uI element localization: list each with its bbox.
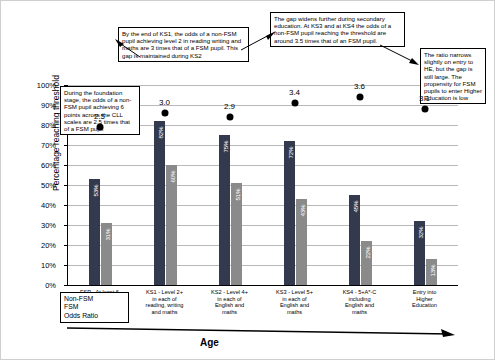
bar-fsm: 43% [296,199,307,285]
bar-fsm: 31% [101,223,112,285]
y-axis-tick-label: 20% [41,241,56,250]
y-axis-tick-label: 80% [41,121,56,130]
bar-group: 45%22% [349,85,372,285]
odds-ratio-value-label: 3.6 [354,82,365,91]
x-axis-category-line: and maths [132,309,197,316]
y-axis-tick-label: 30% [41,221,56,230]
y-axis-tick [64,245,68,246]
x-axis-category-line: maths [262,309,327,316]
x-axis-category-label: KS3 - Level 5+in each ofEnglish andmaths [262,289,327,315]
x-axis-category-line: KS1 - Level 2+ [132,289,197,296]
y-axis-tick-label: 50% [41,181,56,190]
x-axis-category-line: in each of [197,296,262,303]
bar-value-label: 13% [428,265,435,277]
x-axis-category-line: Entry into [392,289,457,296]
y-axis-tick-label: 10% [41,261,56,270]
odds-ratio-point [291,100,298,107]
bar-value-label: 82% [156,127,163,139]
bar-fsm: 60% [166,165,177,285]
odds-ratio-value-label: 2.9 [224,102,235,111]
bar-non-fsm: 32% [414,221,425,285]
x-axis-category-line: Higher [392,296,457,303]
x-axis-category-line: English and [197,302,262,309]
y-axis-tick [64,185,68,186]
odds-ratio-value-label: 2.5 [94,112,105,121]
x-axis-category-line: in each of [262,296,327,303]
bar-value-label: 75% [221,141,228,153]
x-axis-category-line: including [327,296,392,303]
y-axis-tick-label: 70% [41,141,56,150]
bar-value-label: 31% [103,229,110,241]
gridline [68,225,458,226]
odds-ratio-value-label: 3.0 [159,98,170,107]
x-axis-category-line: reading, writing [132,302,197,309]
y-axis-tick-labels: 0%10%20%30%40%50%60%70%80%90%100% [0,85,64,285]
x-axis-category-label: KS2 - Level 4+in each ofEnglish andmaths [197,289,262,315]
x-axis-category-label: KS1 - Level 2+in each ofreading, writing… [132,289,197,315]
odds-ratio-value-label: 3.4 [289,88,300,97]
x-axis-category-line: KS4 - 5+A*-C [327,289,392,296]
gridline [68,245,458,246]
bar-non-fsm: 53% [89,179,100,285]
x-axis-title: Age [200,337,219,348]
y-axis-tick [64,165,68,166]
bar-value-label: 53% [91,185,98,197]
gridline [68,145,458,146]
y-axis-tick [64,225,68,226]
x-axis-category-label: KS4 - 5+A*-CincludingEnglish andmaths [327,289,392,315]
annotation-ks1-ks2: By the end of KS1, the odds of a non-FSM… [118,27,249,62]
bar-group: 72%43% [284,85,307,285]
x-axis-category-line: in each of [132,296,197,303]
legend-item-fsm: FSM [64,303,125,311]
y-axis-tick [64,205,68,206]
bar-non-fsm: 72% [284,141,295,285]
x-axis-category-label: Entry intoHigherEducation [392,289,457,309]
x-axis-category-line: maths [327,309,392,316]
x-axis-category-line: English and [262,302,327,309]
legend-item-odds-ratio: Odds Ratio [64,312,125,320]
bar-value-label: 45% [351,201,358,213]
bar-value-label: 51% [233,189,240,201]
bar-group: 32%13% [414,85,437,285]
y-axis-tick-label: 0% [45,281,56,290]
gridline [68,185,458,186]
legend-item-non-fsm: Non-FSM [64,295,125,303]
x-axis-category-line: KS3 - Level 5+ [262,289,327,296]
bar-fsm: 22% [361,241,372,285]
y-axis-tick-label: 40% [41,201,56,210]
gridline [68,165,458,166]
x-axis-category-line: maths [197,309,262,316]
y-axis-tick-label: 90% [41,101,56,110]
bar-value-label: 32% [416,227,423,239]
y-axis-tick [64,265,68,266]
x-axis-category-line: KS2 - Level 4+ [197,289,262,296]
annotation-secondary: The gap widens further during secondary … [270,12,405,47]
odds-ratio-point [356,94,363,101]
gridline [68,205,458,206]
bar-non-fsm: 45% [349,195,360,285]
bar-value-label: 43% [298,205,305,217]
bar-value-label: 72% [286,147,293,159]
bar-non-fsm: 82% [154,121,165,285]
odds-ratio-point [421,106,428,113]
bar-value-label: 22% [363,247,370,259]
y-axis-tick [64,145,68,146]
bar-non-fsm: 75% [219,135,230,285]
y-axis-tick-label: 60% [41,161,56,170]
x-axis-category-line: English and [327,302,392,309]
odds-ratio-point [161,110,168,117]
bar-value-label: 60% [168,171,175,183]
chart-legend: Non-FSM FSM Odds Ratio [60,292,129,323]
odds-ratio-point [226,114,233,121]
y-axis-tick-label: 100% [37,81,56,90]
odds-ratio-point [96,124,103,131]
y-axis-tick [64,285,68,286]
x-axis-category-line: Education [392,302,457,309]
gridline [68,265,458,266]
bar-fsm: 13% [426,259,437,285]
odds-ratio-value-label: 3.1 [419,94,430,103]
bar-fsm: 51% [231,183,242,285]
